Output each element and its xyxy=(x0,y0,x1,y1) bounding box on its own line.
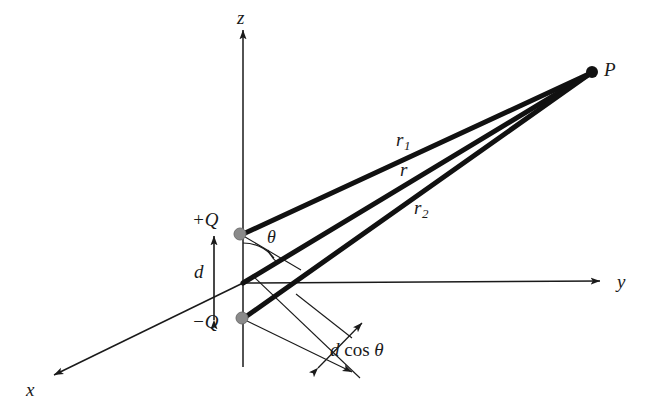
positive-charge-label: +Q xyxy=(192,210,219,229)
projection-d-symbol: d xyxy=(330,339,340,360)
z-axis-label: z xyxy=(237,8,244,27)
r1-label: r1 xyxy=(396,130,410,152)
ray-r xyxy=(243,73,591,283)
negative-charge-label: −Q xyxy=(192,312,219,331)
field-point-dot xyxy=(586,66,598,78)
r1-subscript: 1 xyxy=(404,138,411,153)
projection-cos-symbol: cos xyxy=(344,339,369,360)
x-axis-label: x xyxy=(26,380,34,399)
projection-upper-bound-line xyxy=(296,294,352,338)
r2-subscript: 2 xyxy=(422,206,429,221)
theta-angle-label: θ xyxy=(267,228,276,246)
y-axis-label: y xyxy=(617,272,625,291)
figure-canvas xyxy=(0,0,656,405)
separation-label: d xyxy=(194,262,204,281)
axis-group xyxy=(54,30,600,375)
projection-label: d cos θ xyxy=(330,340,384,359)
projection-construction-line xyxy=(252,275,360,378)
r-label: r xyxy=(400,160,407,179)
projection-theta-symbol: θ xyxy=(374,339,383,360)
r-symbol: r xyxy=(400,159,407,180)
r2-symbol: r xyxy=(414,197,421,218)
positive-charge-dot xyxy=(234,228,246,240)
field-point-label: P xyxy=(604,60,616,79)
negative-charge-dot xyxy=(236,312,248,324)
r2-label: r2 xyxy=(414,198,428,220)
dipole-geometry-figure: z y x P +Q −Q r1 r r2 d θ d cos θ xyxy=(0,0,656,405)
r1-symbol: r xyxy=(396,129,403,150)
